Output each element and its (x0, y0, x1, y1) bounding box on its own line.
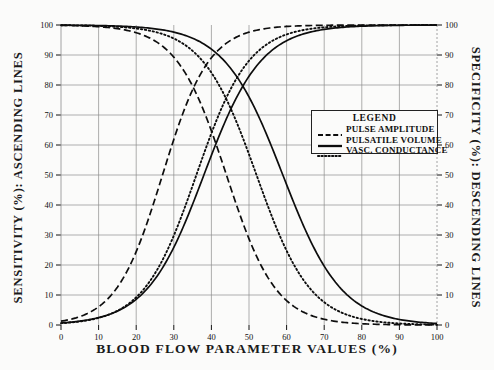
tick-label: 70 (445, 110, 454, 120)
tick-label: 50 (45, 170, 54, 180)
y-axis-title-right: SPECIFICITY (%): DESCENDING LINES (468, 28, 483, 328)
tick-label: 10 (445, 290, 454, 300)
legend-entries: PULSE AMPLITUDEPULSATILE VOLUMEVASC. CON… (312, 124, 437, 156)
plot-canvas: 0102030405060708090100010203040506070809… (0, 0, 494, 370)
tick-label: 90 (445, 50, 454, 60)
gridlines (61, 25, 437, 325)
tick-label: 20 (45, 260, 54, 270)
tick-label: 80 (445, 80, 454, 90)
legend-label: VASC. CONDUCTANCE (346, 145, 448, 155)
tick-label: 30 (45, 230, 54, 240)
tick-label: 20 (445, 260, 454, 270)
tick-label: 0 (445, 320, 449, 330)
tick-label: 10 (45, 290, 54, 300)
tick-label: 100 (445, 20, 458, 30)
legend-label: PULSATILE VOLUME (346, 135, 442, 145)
chart-figure: 0102030405060708090100010203040506070809… (0, 0, 494, 370)
legend: LEGEND PULSE AMPLITUDEPULSATILE VOLUMEVA… (311, 110, 438, 154)
tick-label: 50 (445, 170, 454, 180)
legend-label: PULSE AMPLITUDE (346, 124, 435, 134)
legend-entry: VASC. CONDUCTANCE (312, 145, 437, 156)
legend-entry: PULSE AMPLITUDE (312, 124, 437, 135)
legend-swatch-dotted (317, 146, 343, 154)
tick-label: 40 (45, 200, 54, 210)
legend-swatch-dashed (317, 125, 343, 133)
legend-entry: PULSATILE VOLUME (312, 135, 437, 146)
tick-label: 70 (45, 110, 54, 120)
tick-label: 40 (445, 200, 454, 210)
legend-title: LEGEND (312, 113, 437, 124)
tick-label: 60 (45, 140, 54, 150)
tick-label: 80 (45, 80, 54, 90)
tick-label: 100 (40, 20, 53, 30)
x-axis-title: BLOOD FLOW PARAMETER VALUES (%) (0, 341, 494, 357)
tick-label: 0 (49, 320, 53, 330)
tick-label: 90 (45, 50, 54, 60)
y-axis-title-left: SENSITIVITY (%): ASCENDING LINES (11, 28, 26, 328)
legend-swatch-solid (317, 136, 343, 144)
tick-label: 30 (445, 230, 454, 240)
